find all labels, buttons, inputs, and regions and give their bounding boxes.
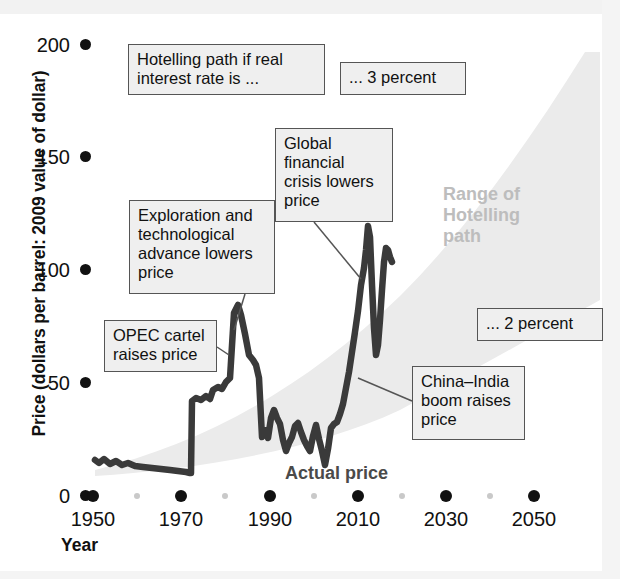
xtick-label-2050: 2050: [499, 508, 569, 531]
xtick-label-2010: 2010: [323, 508, 393, 531]
ytick-dot-200: [80, 39, 91, 50]
callout-exploration-technology: Exploration and technological advance lo…: [129, 200, 275, 294]
hotelling-range-label: Range of Hotelling path: [443, 184, 520, 248]
ytick-dot-150: [80, 151, 91, 162]
leader-line-opec: [217, 347, 229, 355]
xtick-dot-1950: [87, 490, 99, 502]
callout-global-financial-crisis: Global financial crisis lowers price: [275, 128, 393, 222]
xtick-label-1970: 1970: [146, 508, 216, 531]
y-axis-title: Price (dollars per barrel: 2009 value of…: [29, 19, 50, 489]
xtick-label-1950: 1950: [58, 508, 128, 531]
ytick-dot-100: [80, 264, 91, 275]
leader-line-global-financial-crisis: [314, 222, 361, 279]
xtick-dot-2000: [311, 493, 317, 499]
leader-line-china-india: [358, 378, 412, 401]
xtick-dot-1990: [264, 490, 276, 502]
leader-line-exploration: [234, 294, 245, 330]
xtick-label-2030: 2030: [411, 508, 481, 531]
oil-price-hotelling-chart: 200 150 100 50 0 1950 1970 1990 2010 203…: [0, 0, 620, 579]
x-axis-title: Year: [61, 535, 98, 556]
ytick-dot-50: [80, 377, 91, 388]
xtick-dot-1970: [175, 490, 187, 502]
callout-hotelling-path: Hotelling path if real interest rate is …: [128, 44, 325, 95]
xtick-label-1990: 1990: [235, 508, 305, 531]
actual-price-label: Actual price: [285, 463, 388, 484]
callout-three-percent: ... 3 percent: [340, 62, 466, 95]
xtick-dot-1980: [222, 493, 228, 499]
xtick-dot-2030: [440, 490, 452, 502]
callout-opec-cartel: OPEC cartel raises price: [104, 320, 217, 372]
xtick-dot-2010: [352, 490, 364, 502]
xtick-dot-2040: [487, 493, 493, 499]
xtick-dot-1960: [134, 493, 140, 499]
xtick-dot-2020: [399, 493, 405, 499]
xtick-dot-2050: [528, 490, 540, 502]
callout-china-india-boom: China–India boom raises price: [412, 366, 525, 440]
callout-two-percent: ... 2 percent: [477, 308, 603, 341]
